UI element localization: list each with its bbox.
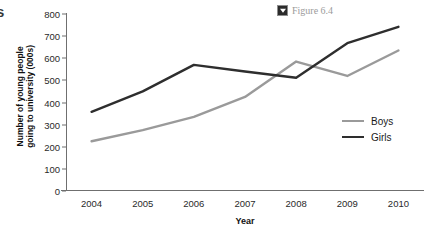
y-axis-title-line2: going to university (000s) [25, 45, 35, 148]
x-axis-tick-label: 2004 [81, 198, 102, 209]
plot-area: 0100200300400500600700800200420052006200… [66, 14, 424, 191]
y-axis-tick-mark [62, 191, 66, 192]
y-axis-tick-mark [62, 14, 66, 15]
line-chart-svg [66, 14, 424, 191]
legend-swatch-boys [342, 120, 364, 122]
legend-swatch-girls [342, 136, 364, 138]
y-axis-tick-mark [62, 58, 66, 59]
legend-label-girls: Girls [371, 132, 392, 143]
y-axis-tick-mark [62, 36, 66, 37]
figure-container: s Figure 6.4 Number of young people goin… [0, 0, 436, 238]
legend-item-girls: Girls [342, 129, 393, 145]
x-axis-tick-label: 2010 [388, 198, 409, 209]
legend-label-boys: Boys [371, 116, 393, 127]
legend-item-boys: Boys [342, 113, 393, 129]
x-axis-tick-label: 2008 [286, 198, 307, 209]
y-axis-tick-mark [62, 102, 66, 103]
y-axis-tick-mark [62, 168, 66, 169]
y-axis-title-line1: Number of young people [15, 46, 25, 146]
y-axis-tick-mark [62, 124, 66, 125]
x-axis-tick-label: 2005 [132, 198, 153, 209]
y-axis-title: Number of young people going to universi… [10, 0, 40, 192]
x-axis-tick-label: 2009 [337, 198, 358, 209]
y-axis-tick-mark [62, 80, 66, 81]
y-axis-tick-mark [62, 146, 66, 147]
x-axis-title: Year [66, 216, 424, 226]
x-axis-tick-label: 2006 [183, 198, 204, 209]
series-line-girls [92, 27, 399, 112]
page-edge-glyph: s [0, 4, 4, 19]
x-axis-tick-label: 2007 [234, 198, 255, 209]
chart-legend: Boys Girls [342, 113, 393, 145]
